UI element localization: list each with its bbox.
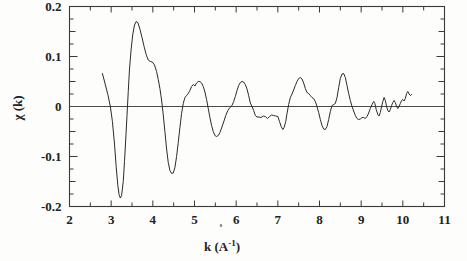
x-tick-label: 3 [108, 212, 115, 227]
x-axis-title: k (A-1) ˚ [204, 223, 240, 254]
x-axis-title-prefix: k ( [204, 239, 219, 254]
x-tick-label: 4 [150, 212, 157, 227]
y-axis-tick-labels: 0.20.10-0.1-0.2 [41, 0, 62, 214]
x-tick-label: 5 [191, 212, 198, 227]
x-tick-label: 9 [358, 212, 365, 227]
chart-figure: 234567891011 0.20.10-0.1-0.2 k (A-1) ˚ χ… [0, 0, 467, 261]
y-tick-label: -0.1 [41, 149, 62, 164]
y-axis-title: χ (k) [10, 95, 25, 121]
x-tick-label: 11 [438, 212, 450, 227]
y-tick-label: 0.2 [45, 0, 61, 14]
svg-text:k (A-1): k (A-1) [204, 238, 240, 254]
x-axis-ticks-top [70, 7, 445, 13]
exafs-chart-svg: 234567891011 0.20.10-0.1-0.2 k (A-1) ˚ χ… [0, 0, 467, 261]
x-axis-tick-labels: 234567891011 [66, 212, 450, 227]
y-tick-label: 0 [55, 99, 62, 114]
x-tick-label: 2 [66, 212, 73, 227]
x-tick-label: 6 [233, 212, 240, 227]
chi-k-data-curve [102, 22, 411, 199]
y-tick-label: -0.2 [41, 199, 62, 214]
x-tick-label: 10 [396, 212, 409, 227]
y-tick-label: 0.1 [45, 49, 61, 64]
x-axis-title-suffix: ) [236, 239, 240, 254]
x-axis-ticks-bottom [70, 201, 445, 207]
x-tick-label: 8 [316, 212, 323, 227]
x-tick-label: 7 [275, 212, 282, 227]
x-axis-title-ring-diacritic: ˚ [219, 223, 222, 234]
